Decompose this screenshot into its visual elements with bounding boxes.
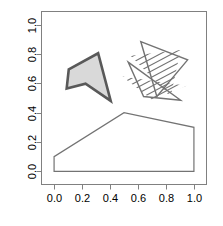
y-tick-label: 0.6	[26, 76, 38, 91]
y-tick-label: 0.0	[26, 164, 38, 179]
y-tick-label: 0.4	[26, 106, 38, 121]
x-tick-label: 0.8	[159, 192, 174, 204]
x-tick-label: 0.6	[131, 192, 146, 204]
x-tick-label: 0.0	[47, 192, 62, 204]
plot-canvas: 0.00.20.40.60.81.0 0.00.20.40.60.81.0	[0, 0, 223, 226]
y-tick-label: 0.8	[26, 47, 38, 62]
x-tick-label: 1.0	[187, 192, 202, 204]
polygon-plot-figure: 0.00.20.40.60.81.0 0.00.20.40.60.81.0	[0, 0, 223, 226]
x-tick-label: 0.2	[75, 192, 90, 204]
x-tick-label: 0.4	[103, 192, 118, 204]
y-tick-label: 1.0	[26, 18, 38, 33]
y-tick-label: 0.2	[26, 135, 38, 150]
